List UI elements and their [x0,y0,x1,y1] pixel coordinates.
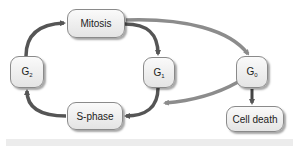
node-g2-label: G2 [21,66,32,78]
arrow-s-phase-to-g2 [27,91,66,116]
node-g0-label: G0 [246,66,257,78]
node-g0: G0 [236,56,268,88]
arrow-mitosis-to-g1 [125,24,158,54]
node-cell-death: Cell death [226,106,284,132]
node-g2: G2 [10,56,44,88]
arrow-g1-to-s-phase [126,88,158,116]
node-g1-label: G1 [153,67,164,79]
node-g1: G1 [143,57,175,88]
arrow-g2-to-mitosis [26,23,64,56]
arrow-mitosis-to-g0 [126,20,248,54]
node-s-phase-label: S-phase [76,111,113,122]
node-cell-death-label: Cell death [232,114,277,125]
footer-band [6,139,293,146]
node-s-phase: S-phase [67,102,123,130]
node-mitosis-label: Mitosis [80,18,111,29]
arrow-g0-to-s-phase [165,82,238,103]
node-mitosis: Mitosis [67,9,125,38]
cell-cycle-diagram: Mitosis G2 G1 G0 S-phase Cell death [0,0,293,146]
